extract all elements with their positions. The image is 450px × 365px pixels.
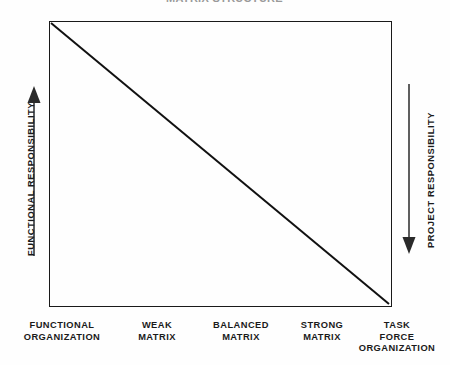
arrow-down-icon [400, 84, 418, 256]
x-axis-label-row: FUNCTIONALORGANIZATIONWEAKMATRIXBALANCED… [0, 320, 450, 365]
figure-title-clipped: MATRIX STRUCTURE [137, 0, 312, 5]
x-axis-label-line: STRONG [301, 320, 343, 332]
diagonal-line-svg [50, 22, 391, 306]
x-axis-label-line: MATRIX [301, 332, 343, 344]
x-axis-label-task-force-organization: TASKFORCEORGANIZATION [359, 320, 436, 355]
chart-plot-area [49, 21, 392, 307]
x-axis-label-line: BALANCED [213, 320, 269, 332]
x-axis-label-line: ORGANIZATION [359, 343, 436, 355]
figure-title-text: MATRIX STRUCTURE [137, 0, 312, 4]
x-axis-label-balanced-matrix: BALANCEDMATRIX [213, 320, 269, 343]
x-axis-label-weak-matrix: WEAKMATRIX [138, 320, 176, 343]
left-axis-label: FUNCTIONAL RESPONSIBILITY [26, 102, 36, 256]
x-axis-label-line: FUNCTIONAL [24, 320, 101, 332]
x-axis-label-line: MATRIX [138, 332, 176, 344]
x-axis-label-functional-organization: FUNCTIONALORGANIZATION [24, 320, 101, 343]
right-axis-label: PROJECT RESPONSIBILITY [426, 112, 436, 248]
responsibility-crossover-line [51, 23, 389, 304]
x-axis-label-line: ORGANIZATION [24, 332, 101, 344]
x-axis-label-line: FORCE [359, 332, 436, 344]
x-axis-label-line: TASK [359, 320, 436, 332]
x-axis-label-line: WEAK [138, 320, 176, 332]
x-axis-label-strong-matrix: STRONGMATRIX [301, 320, 343, 343]
x-axis-label-line: MATRIX [213, 332, 269, 344]
